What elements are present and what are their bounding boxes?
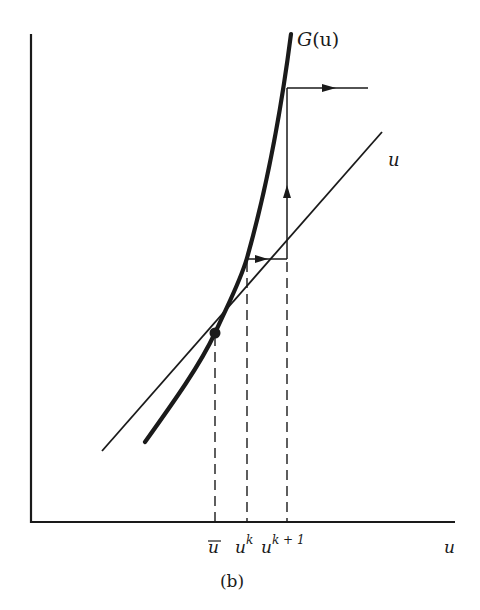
x-axis-label: u — [444, 537, 455, 557]
curve-G-of-u — [145, 34, 291, 442]
arrow-icon-up — [283, 185, 291, 198]
line-label-u: u — [388, 149, 400, 170]
fixed-point-marker — [210, 328, 221, 339]
curve-label: G(u) — [297, 28, 339, 50]
tick-label-u-bar: u — [208, 537, 219, 557]
fixed-point-iteration-diagram: G(u) u u uk uk + 1 u (b) — [0, 0, 480, 610]
arrow-icon-right-2 — [322, 84, 336, 92]
tick-label-u-k: uk — [235, 533, 253, 557]
identity-line-u — [102, 132, 382, 451]
tick-label-u-k-plus-1: uk + 1 — [261, 533, 305, 557]
figure-caption: (b) — [220, 571, 244, 591]
arrow-icon-right-1 — [255, 255, 268, 263]
